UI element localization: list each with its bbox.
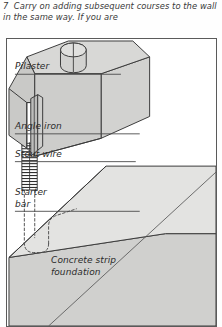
figure-illustration — [7, 39, 216, 326]
figure-frame: Pilaster Angle iron Stout wire Starter b… — [6, 38, 217, 327]
label-angle-iron: Angle iron — [15, 121, 62, 133]
label-starter-bar: Starter bar — [15, 187, 47, 210]
figure-page: 7 Carry on adding subsequent courses to … — [0, 0, 222, 327]
block-front-face — [35, 74, 101, 156]
label-stout-wire: Stout wire — [15, 149, 62, 161]
step-caption: 7 Carry on adding subsequent courses to … — [3, 1, 219, 24]
label-concrete-foundation: Concrete strip foundation — [51, 255, 116, 278]
cylinder-socket — [60, 43, 86, 73]
label-pilaster: Pilaster — [15, 61, 49, 73]
